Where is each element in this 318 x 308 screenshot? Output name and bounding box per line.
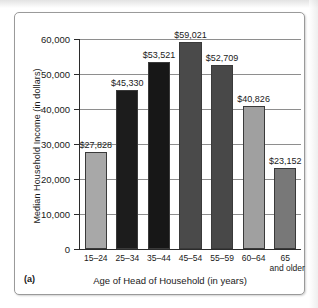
figure-letter-label: (a): [24, 274, 35, 284]
bar: [243, 106, 265, 249]
x-axis-tick-label-main: 45–54: [179, 253, 203, 263]
x-axis-tick-label: 25–34: [112, 253, 144, 263]
x-axis-tick-label-main: 25–34: [116, 253, 140, 263]
x-axis-tick-label: 55–59: [206, 253, 238, 263]
bar-value-label: $23,152: [269, 157, 302, 166]
bar: [179, 42, 201, 249]
bar-value-label: $27,828: [80, 141, 113, 150]
x-axis-tick-label-main: 35–44: [147, 253, 171, 263]
bar-group: $45,330: [116, 39, 138, 249]
bar: [116, 90, 138, 249]
y-axis-tick: [74, 249, 80, 250]
y-axis-tick-label: 60,000: [18, 35, 70, 45]
x-axis-tick-label: 15–24: [80, 253, 112, 263]
x-axis-tick-label-main: 65: [280, 253, 289, 263]
bar-group: $23,152: [274, 39, 296, 249]
y-axis-tick-label: 20,000: [18, 175, 70, 185]
x-axis-title: Age of Head of Household (in years): [45, 275, 295, 286]
figure-frame: Median Household Income (in dollars) 010…: [14, 12, 305, 295]
bar: [148, 62, 170, 249]
chart-plot-area: 010,00020,00030,00040,00050,00060,000 $2…: [79, 39, 301, 249]
x-axis-tick-label-sub: and older: [269, 263, 301, 273]
bar-value-label: $45,330: [111, 79, 144, 88]
x-axis-tick-label-main: 55–59: [210, 253, 234, 263]
y-axis-tick-label: 30,000: [18, 140, 70, 150]
x-axis-tick-label-main: 15–24: [84, 253, 108, 263]
scan-shadow-top: [0, 0, 318, 8]
x-axis-tick-label: 35–44: [143, 253, 175, 263]
bar: [211, 65, 233, 249]
bar: [274, 168, 296, 249]
x-axis-tick-label: 60–64: [238, 253, 270, 263]
x-axis-line: [79, 249, 301, 250]
x-axis-tick-label-main: 60–64: [242, 253, 266, 263]
x-axis-tick-label: 65and older: [269, 253, 301, 273]
bar-group: $53,521: [148, 39, 170, 249]
bar-value-label: $59,021: [174, 31, 207, 40]
bar-group: $40,826: [243, 39, 265, 249]
bar-value-label: $52,709: [206, 54, 239, 63]
bar: [85, 152, 107, 249]
y-axis-tick-label: 10,000: [18, 210, 70, 220]
scan-shadow-right: [309, 0, 318, 308]
y-axis-tick-label: 40,000: [18, 105, 70, 115]
bar-value-label: $40,826: [237, 95, 270, 104]
bar-group: $52,709: [211, 39, 233, 249]
x-axis-tick-label: 45–54: [175, 253, 207, 263]
y-axis-tick-label: 0: [18, 245, 70, 255]
y-axis-tick-label: 50,000: [18, 70, 70, 80]
bar-group: $27,828: [85, 39, 107, 249]
bar-group: $59,021: [179, 39, 201, 249]
bar-series: $27,828$45,330$53,521$59,021$52,709$40,8…: [80, 39, 301, 249]
bar-value-label: $53,521: [143, 51, 176, 60]
